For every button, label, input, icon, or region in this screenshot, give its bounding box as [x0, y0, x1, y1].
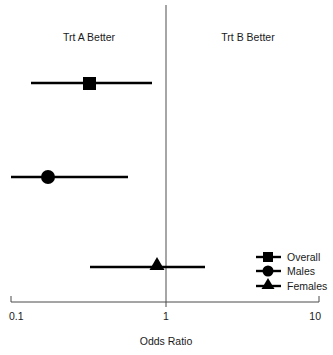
legend-label-males: Males: [287, 265, 315, 277]
triangle-marker-females: [150, 257, 165, 270]
triangle-marker-legend: [262, 278, 275, 289]
x-axis-title: Odds Ratio: [140, 335, 193, 347]
axis-line-with-end-caps: [11, 296, 319, 302]
x-axis: 0.1 1 10 Odds Ratio: [9, 296, 321, 347]
right-side-annotation: Trt B Better: [221, 31, 275, 43]
legend: Overall Males Females: [256, 251, 327, 292]
axis-tick-label-mid: 1: [163, 310, 169, 322]
forest-row-overall: [31, 77, 152, 90]
forest-plot-figure: Trt A Better Trt B Better 0.1 1 10 Odds …: [0, 0, 333, 355]
legend-item-overall: Overall: [256, 251, 320, 263]
circle-marker-males: [41, 170, 55, 184]
legend-item-females: Females: [256, 278, 327, 292]
forest-plot-canvas: Trt A Better Trt B Better 0.1 1 10 Odds …: [0, 0, 333, 355]
axis-tick-label-left: 0.1: [9, 310, 24, 322]
square-marker-overall: [83, 77, 96, 90]
circle-marker-legend: [263, 266, 274, 277]
legend-label-females: Females: [287, 280, 327, 292]
square-marker-legend: [263, 252, 273, 262]
left-side-annotation: Trt A Better: [63, 31, 116, 43]
legend-label-overall: Overall: [287, 251, 320, 263]
legend-item-males: Males: [256, 265, 315, 277]
axis-tick-label-right: 10: [309, 310, 321, 322]
forest-row-females: [90, 257, 205, 270]
forest-row-males: [11, 170, 128, 184]
